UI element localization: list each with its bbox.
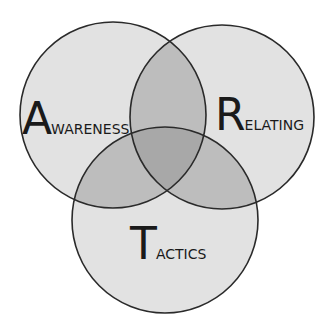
label-tactics: Tactics (130, 222, 206, 266)
label-relating: Relating (215, 93, 304, 137)
label-awareness-rest: wareness (51, 121, 129, 137)
label-awareness: Awareness (22, 97, 129, 141)
label-relating-rest: elating (245, 117, 304, 133)
label-tactics-cap: T (130, 218, 156, 269)
label-relating-cap: R (215, 89, 245, 140)
label-tactics-rest: actics (156, 246, 206, 262)
label-awareness-cap: A (22, 93, 51, 144)
venn-diagram (0, 0, 330, 334)
